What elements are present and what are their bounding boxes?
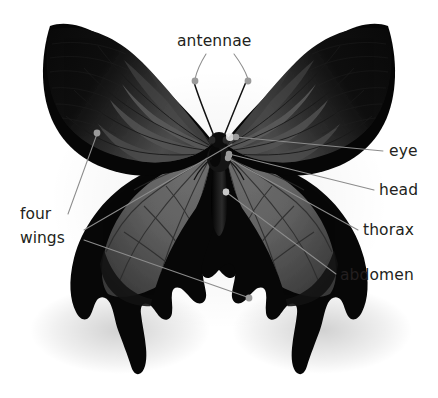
- label-antennae: antennae: [177, 32, 251, 50]
- leader-dot-abdomen: [223, 189, 229, 195]
- label-abdomen: abdomen: [340, 266, 414, 284]
- butterfly-anatomy-figure: antennae eye head thorax abdomen: [0, 0, 438, 398]
- label-wings: wings: [20, 229, 65, 247]
- label-thorax: thorax: [363, 221, 414, 239]
- leader-dot-forewing-left: [94, 130, 101, 137]
- label-four: four: [20, 205, 52, 223]
- leader-dot-hindwing-right: [246, 295, 253, 302]
- leader-dot-thorax: [225, 155, 231, 161]
- label-eye: eye: [389, 142, 418, 160]
- leader-dot-antenna-right: [245, 78, 252, 85]
- eye-left: [209, 136, 216, 144]
- anatomy-diagram-svg: antennae eye head thorax abdomen: [0, 0, 438, 398]
- label-head: head: [379, 181, 418, 199]
- leader-dot-eye: [233, 134, 239, 140]
- leader-dot-antenna-left: [192, 78, 199, 85]
